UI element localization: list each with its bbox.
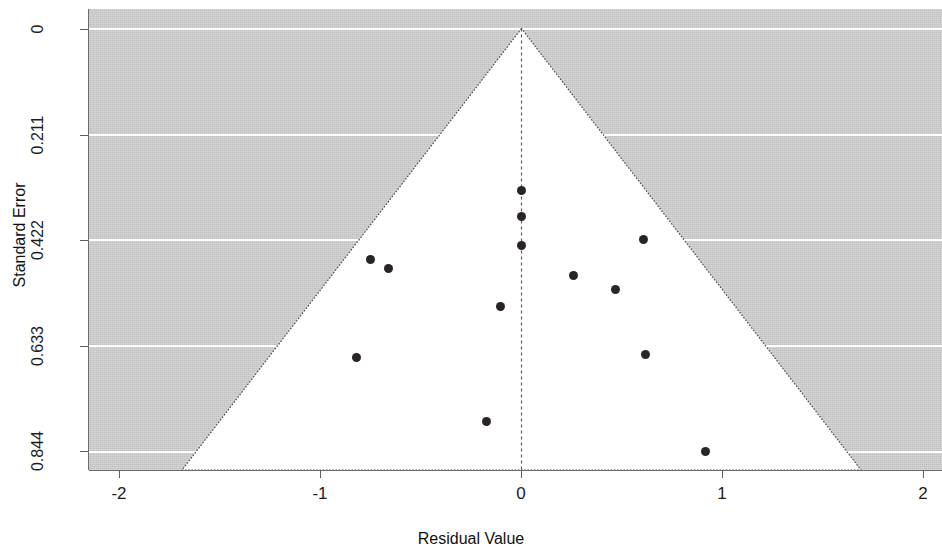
funnel-plot-figure: -2-1012 00.2110.4220.6330.844 Standard E… [0,0,942,555]
x-axis-title: Residual Value [0,530,942,548]
x-axis-tick-label: -2 [111,484,126,504]
y-axis-tick [80,346,88,347]
x-axis-tick-label: 0 [516,484,525,504]
x-axis-tick-label: 2 [918,484,927,504]
y-axis-title-container: Standard Error [8,0,32,470]
x-axis-tick [119,470,120,478]
y-axis-tick [80,451,88,452]
x-axis-tick [320,470,321,478]
y-axis-tick [80,29,88,30]
x-axis-tick-label: 1 [717,484,726,504]
y-axis-tick [80,135,88,136]
x-axis-tick [923,470,924,478]
y-axis-line [88,9,89,470]
y-axis-title: Standard Error [11,183,29,288]
x-axis-line [89,470,942,471]
y-axis-tick [80,240,88,241]
x-axis-tick [521,470,522,478]
x-axis-tick-label: -1 [312,484,327,504]
funnel-region [89,9,942,470]
x-axis-tick [722,470,723,478]
